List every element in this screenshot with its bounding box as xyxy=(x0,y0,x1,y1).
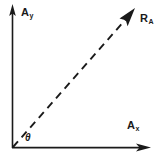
angle-theta-label: θ xyxy=(25,133,31,143)
y-axis-label-base: A xyxy=(21,6,29,18)
resultant-vector-line xyxy=(13,19,126,147)
y-axis-label: Ay xyxy=(21,7,33,18)
resultant-vector-label-subscript: A xyxy=(148,18,153,25)
x-axis-label-subscript: x xyxy=(135,125,139,132)
resultant-vector-arrowhead xyxy=(120,8,136,26)
resultant-vector-label: RA xyxy=(140,13,153,24)
y-axis-label-subscript: y xyxy=(29,12,33,19)
vector-diagram-canvas xyxy=(0,0,156,160)
vector-diagram-figure: Ay RA Ax θ xyxy=(0,0,156,160)
resultant-vector-label-base: R xyxy=(140,12,148,24)
x-axis-label-base: A xyxy=(127,119,135,131)
x-axis-label: Ax xyxy=(127,120,139,131)
